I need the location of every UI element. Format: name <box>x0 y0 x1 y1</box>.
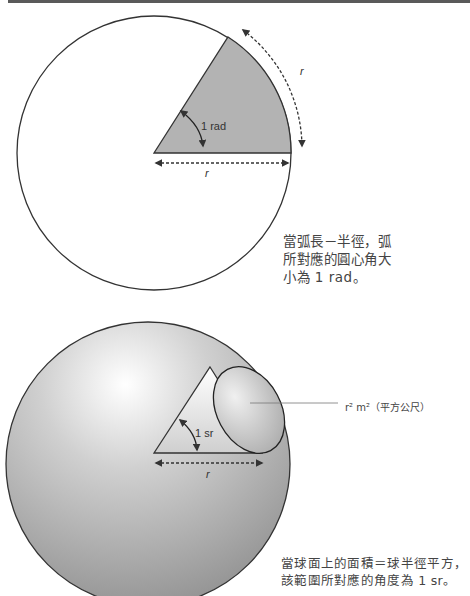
diagram-canvas: 1 rad r r 1 sr r <box>0 0 470 596</box>
angle-label: 1 rad <box>201 120 226 132</box>
radian-figure: 1 rad r r <box>17 16 305 290</box>
steradian-caption: 當球面上的面積＝球半徑平方， 該範圍所對應的角度為 1 sr。 <box>281 555 470 589</box>
radian-caption: 當弧長－半徑，弧所對應的圓心角大小為 1 rad。 <box>283 232 393 286</box>
sphere <box>6 322 290 596</box>
steradian-caption-line2: 該範圍所對應的角度為 1 sr。 <box>281 572 470 589</box>
area-label: r² m²（平方公尺） <box>345 399 430 414</box>
steradian-caption-line1: 當球面上的面積＝球半徑平方， <box>281 555 470 572</box>
sr-label: 1 sr <box>195 427 214 439</box>
arc-label: r <box>300 65 305 77</box>
